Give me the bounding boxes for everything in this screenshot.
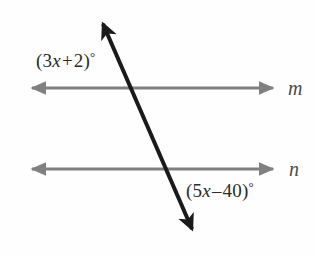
geometry-figure: (3x+2)° (5x–40)° m n <box>0 0 316 256</box>
line-label-m: m <box>288 77 302 100</box>
lower-coefficient: 5 <box>193 180 203 201</box>
line-label-n: n <box>289 158 299 181</box>
upper-coefficient: 3 <box>43 50 53 71</box>
lower-variable: x <box>202 180 211 201</box>
lower-constant: 40 <box>223 180 242 201</box>
lower-operator: – <box>211 180 223 201</box>
upper-variable: x <box>52 50 61 71</box>
degree-symbol-icon: ° <box>90 49 95 64</box>
degree-symbol-icon: ° <box>249 179 254 194</box>
transversal-line <box>103 24 192 229</box>
angle-label-lower: (5x–40)° <box>186 179 254 202</box>
angle-label-upper: (3x+2)° <box>36 49 95 72</box>
upper-constant: 2 <box>74 50 84 71</box>
diagram-canvas <box>0 0 316 256</box>
upper-operator: + <box>61 50 74 71</box>
